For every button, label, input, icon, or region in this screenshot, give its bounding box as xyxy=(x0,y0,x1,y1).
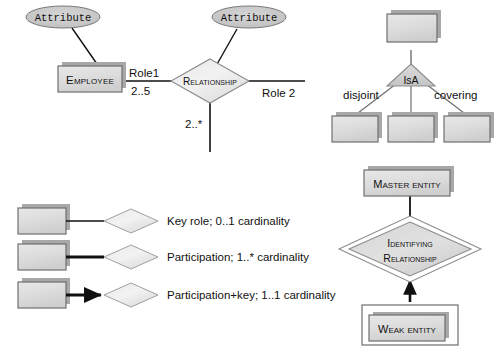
isa-subclass-2-box xyxy=(388,116,434,142)
entity-master-label: Master entity xyxy=(373,178,441,190)
legend-row-1-label: Key role; 0..1 cardinality xyxy=(167,215,290,227)
isa-subclass-1-box xyxy=(332,116,378,142)
legend-row-2-entity-box xyxy=(18,244,66,270)
legend-row-2-diamond xyxy=(104,245,158,269)
entity-employee[interactable]: Employee xyxy=(58,62,126,92)
entity-weak[interactable]: Weak entity xyxy=(362,305,458,345)
legend-row-1-entity-box xyxy=(18,208,66,234)
isa-triangle[interactable]: IsA xyxy=(387,64,435,86)
legend-row-key-role: Key role; 0..1 cardinality xyxy=(18,204,290,234)
er-diagram-canvas: Employee Relationship Attribute Attribut… xyxy=(0,0,498,354)
isa-subclass-entity-2[interactable] xyxy=(388,112,438,142)
identifying-relationship-label-line1: Identifying xyxy=(387,237,432,249)
isa-constraint-covering-label: covering xyxy=(434,89,477,101)
identifying-relationship-diamond[interactable]: Identifying Relationship xyxy=(339,216,481,282)
isa-subclass-entity-3[interactable] xyxy=(444,112,494,142)
entity-weak-label: Weak entity xyxy=(378,323,437,335)
cardinality-bottom-label: 2..* xyxy=(185,118,203,130)
entity-employee-label: Employee xyxy=(66,74,114,86)
relationship-diamond-label: Relationship xyxy=(183,76,237,87)
role-right-label: Role 2 xyxy=(262,87,295,99)
attribute-right-connector xyxy=(216,29,237,66)
attribute-ellipse-right-label: Attribute xyxy=(221,12,278,24)
attribute-ellipse-left-label: Attribute xyxy=(35,12,92,24)
isa-panel: IsA disjoint covering xyxy=(332,10,494,142)
legend-row-3-label: Participation+key; 1..1 cardinality xyxy=(167,289,336,301)
role-left-label: Role1 xyxy=(129,67,159,79)
weak-entity-panel: Master entity Identifying Relationship W… xyxy=(339,166,481,345)
entity-master[interactable]: Master entity xyxy=(364,166,454,196)
legend-row-3-entity-box xyxy=(18,282,66,308)
legend-row-participation: Participation; 1..* cardinality xyxy=(18,240,309,270)
isa-subclass-3-box xyxy=(444,116,490,142)
isa-superclass-entity[interactable] xyxy=(387,10,441,42)
legend-row-1-diamond xyxy=(104,209,158,233)
legend-row-participation-key: Participation+key; 1..1 cardinality xyxy=(18,278,336,308)
identifying-relationship-inner xyxy=(349,222,471,276)
isa-triangle-label: IsA xyxy=(403,74,418,86)
cardinality-left-label: 2..5 xyxy=(131,85,150,97)
legend-row-3-diamond xyxy=(104,283,158,307)
attribute-ellipse-left[interactable]: Attribute xyxy=(26,6,100,28)
relationship-diamond[interactable]: Relationship xyxy=(171,59,249,103)
attribute-left-connector xyxy=(72,28,97,64)
attribute-ellipse-right[interactable]: Attribute xyxy=(212,6,286,28)
identifying-relationship-label-line2: Relationship xyxy=(383,252,437,264)
isa-constraint-disjoint-label: disjoint xyxy=(343,89,380,101)
relationship-panel: Employee Relationship Attribute Attribut… xyxy=(26,6,305,152)
isa-subclass-entity-1[interactable] xyxy=(332,112,382,142)
legend-row-2-label: Participation; 1..* cardinality xyxy=(167,251,309,263)
legend-panel: Key role; 0..1 cardinality Participation… xyxy=(18,204,336,308)
isa-superclass-box xyxy=(387,14,437,42)
